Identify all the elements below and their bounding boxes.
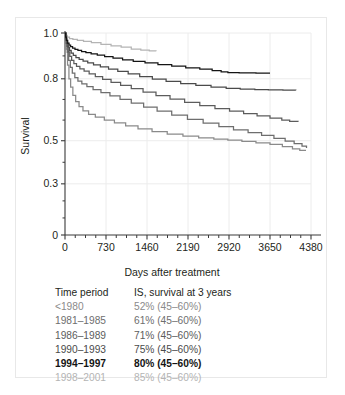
survival-curve xyxy=(65,33,270,73)
y-axis-title: Survival xyxy=(19,101,31,171)
survival-plot: 00.30.50.81.0073014602190292036504380 xyxy=(16,18,328,263)
x-axis-tick-label: 3650 xyxy=(258,241,282,253)
legend-row: 1998–200185% (45–60%) xyxy=(16,371,328,385)
legend-period-label: 1990–1993 xyxy=(16,343,128,357)
legend-row: 1990–199375% (45–60%) xyxy=(16,343,328,357)
survival-curve xyxy=(65,33,296,90)
legend-value-label: 85% (45–60%) xyxy=(128,371,298,385)
legend-row: <198052% (45–60%) xyxy=(16,300,328,314)
x-axis-tick-label: 4380 xyxy=(299,241,323,253)
legend-value-label: 75% (45–60%) xyxy=(128,343,298,357)
legend-header-row: Time period IS, survival at 3 years xyxy=(16,286,328,300)
y-axis-tick-label: 1.0 xyxy=(43,27,58,39)
survival-curve xyxy=(65,33,298,122)
x-axis-tick-label: 1460 xyxy=(135,241,159,253)
legend-value-label: 52% (45–60%) xyxy=(128,300,298,314)
legend-value-label: 61% (45–60%) xyxy=(128,314,298,328)
x-axis-tick-label: 0 xyxy=(62,241,68,253)
x-axis-tick-label: 2920 xyxy=(217,241,241,253)
legend-header-period: Time period xyxy=(16,286,128,300)
x-axis-tick-label: 730 xyxy=(97,241,115,253)
legend-row: 1994–199780% (45–60%) xyxy=(16,357,328,371)
y-axis-tick-label: 0.8 xyxy=(43,72,58,84)
survival-chart-svg: 00.30.50.81.0073014602190292036504380 xyxy=(16,18,328,263)
legend-rows: <198052% (45–60%)1981–198561% (45–60%)19… xyxy=(16,300,328,385)
x-axis-tick-label: 2190 xyxy=(176,241,200,253)
y-axis-tick-label: 0.3 xyxy=(43,177,58,189)
y-axis-tick-label: 0.5 xyxy=(43,134,58,146)
legend-period-label: <1980 xyxy=(16,300,128,314)
legend-header-value: IS, survival at 3 years xyxy=(128,286,298,300)
legend-value-label: 80% (45–60%) xyxy=(128,357,298,371)
legend-period-label: 1986–1989 xyxy=(16,329,128,343)
legend-table: Time period IS, survival at 3 years <198… xyxy=(16,286,328,385)
x-axis-title: Days after treatment xyxy=(16,266,328,278)
y-axis-tick-label: 0 xyxy=(52,229,58,241)
legend-value-label: 71% (45–60%) xyxy=(128,329,298,343)
figure-panel: 00.30.50.81.0073014602190292036504380 Da… xyxy=(15,17,327,378)
survival-curve xyxy=(65,33,156,51)
legend-period-label: 1981–1985 xyxy=(16,314,128,328)
legend-row: 1981–198561% (45–60%) xyxy=(16,314,328,328)
legend-period-label: 1994–1997 xyxy=(16,357,128,371)
legend-period-label: 1998–2001 xyxy=(16,371,128,385)
legend-row: 1986–198971% (45–60%) xyxy=(16,329,328,343)
